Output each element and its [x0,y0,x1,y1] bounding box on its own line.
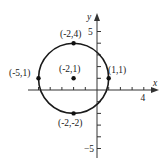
label-center-point: (-2,1) [59,64,80,75]
label-top-point: (-2,4) [60,29,81,40]
y-tick-label-5: 5 [88,27,93,37]
x-axis-label: x [152,78,158,88]
point-top [71,41,75,45]
label-bottom-point: (-2,-2) [58,118,83,129]
point-center [71,76,75,80]
x-tick-label-4: 4 [141,93,146,103]
label-left-point: (-5,1) [9,68,30,79]
point-left [36,76,40,80]
y-axis-label: y [86,12,92,22]
point-bottom [71,111,75,115]
y-tick-label-neg5: −5 [84,144,94,154]
label-right-point: (1,1) [108,65,126,76]
y-axis-arrow-icon [94,13,100,21]
point-right [107,76,111,80]
coordinate-plane: y x 5 −5 4 (-2,4) (-2,1) (-5,1) (1,1) (-… [0,0,166,167]
